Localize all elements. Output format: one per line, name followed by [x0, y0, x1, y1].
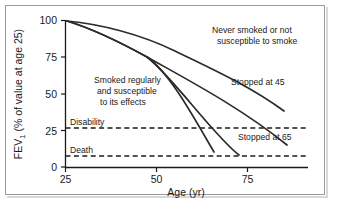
- y-axis-title-main: FEV: [12, 139, 24, 159]
- fev1-decline-chart: 100 75 50 25 0 25 50 75 Age (yr) FEV1 (%…: [0, 0, 337, 216]
- y-axis-title: FEV1 (% of value at age 25): [12, 29, 27, 159]
- xtick-labels: 25 50 75: [60, 173, 254, 185]
- annotation-never-smoked: Never smoked or not susceptible to smoke: [212, 25, 297, 46]
- disability-label: Disability: [70, 117, 105, 127]
- xtick-label-50: 50: [151, 173, 163, 185]
- curve-stopped-at-65: [147, 57, 239, 155]
- annot-never-smoked-line2: susceptible to smoke: [217, 36, 297, 46]
- annotation-smoked-regularly: Smoked regularly and susceptible to its …: [94, 75, 162, 107]
- figure-container: 100 75 50 25 0 25 50 75 Age (yr) FEV1 (%…: [0, 0, 337, 216]
- ytick-label-25: 25: [45, 125, 57, 137]
- annot-never-smoked-line1: Never smoked or not: [212, 25, 292, 35]
- xtick-label-75: 75: [242, 173, 254, 185]
- ytick-label-100: 100: [39, 14, 57, 26]
- ytick-label-50: 50: [45, 88, 57, 100]
- ytick-labels: 100 75 50 25 0: [39, 14, 57, 173]
- annot-smoked-line1: Smoked regularly: [94, 75, 162, 85]
- annot-stopped-at-65: Stopped at 65: [238, 132, 292, 142]
- ytick-label-75: 75: [45, 51, 57, 63]
- x-axis-title: Age (yr): [167, 186, 204, 198]
- annot-smoked-line3: to its effects: [100, 97, 146, 107]
- xtick-label-25: 25: [60, 173, 72, 185]
- annot-smoked-line2: and susceptible: [97, 86, 157, 96]
- death-label: Death: [70, 145, 93, 155]
- ytick-label-0: 0: [51, 161, 57, 173]
- annot-stopped-at-45: Stopped at 45: [231, 77, 285, 87]
- y-axis-title-rest: (% of value at age 25): [12, 29, 24, 135]
- y-axis-title-group: FEV1 (% of value at age 25): [12, 29, 27, 159]
